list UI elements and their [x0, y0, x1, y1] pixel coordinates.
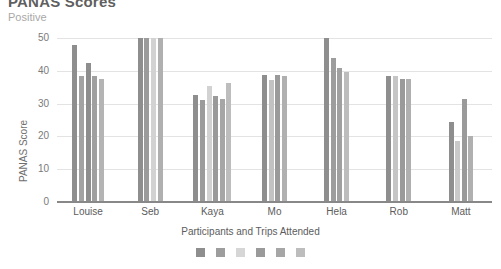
plot-area — [57, 38, 492, 202]
y-axis-tick-label: 50 — [0, 32, 49, 43]
chart-legend — [0, 248, 501, 257]
panas-bar-chart: PANAS Scores Positive PANAS Score 010203… — [0, 0, 501, 269]
bar[interactable] — [207, 86, 212, 202]
bar[interactable] — [331, 58, 336, 202]
bar-group — [243, 38, 305, 202]
y-axis-title-wrap: PANAS Score — [6, 38, 22, 202]
x-axis-tick-label: Rob — [390, 206, 408, 217]
x-axis-tick-label: Matt — [451, 206, 470, 217]
bar[interactable] — [462, 99, 467, 202]
x-axis-tick-label: Mo — [268, 206, 282, 217]
bar[interactable] — [86, 63, 91, 202]
bar-group — [368, 38, 430, 202]
y-axis-tick-label: 0 — [0, 196, 49, 207]
y-axis-tick-label: 10 — [0, 163, 49, 174]
bar[interactable] — [144, 38, 149, 202]
bar[interactable] — [269, 80, 274, 202]
legend-item[interactable] — [216, 248, 225, 257]
legend-item[interactable] — [276, 248, 285, 257]
bar[interactable] — [138, 38, 143, 202]
bar[interactable] — [468, 136, 473, 202]
bar[interactable] — [226, 83, 231, 202]
x-axis-baseline — [57, 201, 492, 203]
bar[interactable] — [220, 99, 225, 202]
bar[interactable] — [386, 76, 391, 202]
bar[interactable] — [344, 72, 349, 202]
x-axis-title: Participants and Trips Attended — [0, 226, 501, 237]
bar[interactable] — [324, 38, 329, 202]
x-axis-tick-label: Kaya — [201, 206, 224, 217]
bar[interactable] — [200, 100, 205, 202]
bar[interactable] — [151, 38, 156, 202]
bar[interactable] — [262, 75, 267, 202]
y-axis-tick-label: 20 — [0, 130, 49, 141]
bar[interactable] — [406, 79, 411, 202]
legend-swatch-icon — [256, 248, 265, 257]
x-axis-tick-label: Louise — [73, 206, 102, 217]
x-axis-tick-label: Seb — [141, 206, 159, 217]
legend-swatch-icon — [196, 248, 205, 257]
legend-swatch-icon — [276, 248, 285, 257]
bar[interactable] — [79, 76, 84, 202]
bar-group — [57, 38, 119, 202]
bar[interactable] — [275, 75, 280, 202]
bar[interactable] — [99, 79, 104, 202]
bar[interactable] — [193, 95, 198, 202]
legend-swatch-icon — [216, 248, 225, 257]
legend-item[interactable] — [256, 248, 265, 257]
bar[interactable] — [92, 76, 97, 202]
bar-group — [306, 38, 368, 202]
chart-title: PANAS Scores — [8, 0, 116, 10]
bar[interactable] — [337, 68, 342, 202]
bar[interactable] — [455, 141, 460, 202]
y-axis-tick-label: 30 — [0, 98, 49, 109]
legend-item[interactable] — [296, 248, 305, 257]
bar[interactable] — [449, 122, 454, 202]
x-axis-tick-label: Hela — [326, 206, 347, 217]
chart-subtitle: Positive — [8, 11, 47, 23]
legend-swatch-icon — [296, 248, 305, 257]
bar[interactable] — [72, 45, 77, 202]
bar[interactable] — [400, 79, 405, 202]
bar-group — [119, 38, 181, 202]
bar[interactable] — [213, 96, 218, 202]
bar[interactable] — [393, 76, 398, 202]
legend-item[interactable] — [236, 248, 245, 257]
legend-item[interactable] — [196, 248, 205, 257]
bar[interactable] — [282, 76, 287, 202]
y-axis-tick-label: 40 — [0, 65, 49, 76]
legend-swatch-icon — [236, 248, 245, 257]
bar[interactable] — [158, 38, 163, 202]
bar-group — [181, 38, 243, 202]
bar-group — [430, 38, 492, 202]
